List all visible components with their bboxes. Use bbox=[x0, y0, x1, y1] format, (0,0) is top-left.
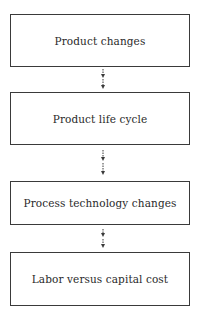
node-label: Product changes bbox=[55, 35, 146, 47]
node-product-changes: Product changes bbox=[10, 14, 190, 67]
node-labor-versus-capital-cost: Labor versus capital cost bbox=[10, 252, 190, 306]
node-process-technology-changes: Process technology changes bbox=[10, 181, 190, 225]
node-label: Labor versus capital cost bbox=[32, 273, 168, 285]
arrow-down-icon bbox=[97, 225, 109, 252]
node-product-life-cycle: Product life cycle bbox=[10, 92, 190, 145]
node-label: Process technology changes bbox=[23, 197, 176, 209]
arrow-down-icon bbox=[97, 146, 109, 181]
node-label: Product life cycle bbox=[53, 113, 148, 125]
arrow-down-icon bbox=[97, 67, 109, 92]
